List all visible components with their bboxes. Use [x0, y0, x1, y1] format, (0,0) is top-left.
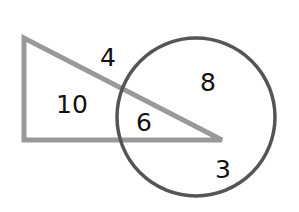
label-intersection-6: 6: [136, 108, 152, 137]
label-outside-4: 4: [100, 43, 116, 72]
label-circle-8: 8: [200, 68, 216, 97]
label-circle-3: 3: [215, 155, 231, 184]
label-triangle-only-10: 10: [56, 90, 88, 119]
venn-diagram: 4 10 6 8 3: [0, 0, 299, 212]
